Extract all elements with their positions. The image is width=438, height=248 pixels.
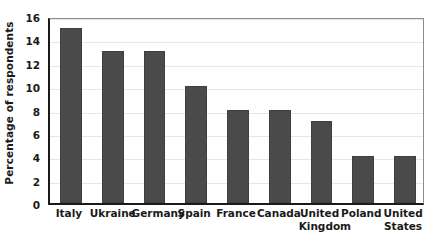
x-axis-tick-label: Spain bbox=[173, 207, 215, 220]
bar bbox=[185, 86, 207, 203]
bar-chart: Percentage of respondents 0246810121416 … bbox=[0, 0, 438, 248]
y-axis-tick-label: 14 bbox=[25, 35, 40, 47]
bar bbox=[227, 110, 249, 204]
y-axis-tick-label: 2 bbox=[33, 176, 40, 188]
bar bbox=[394, 156, 416, 203]
y-axis-tick-label: 10 bbox=[25, 82, 40, 94]
x-axis-tick-label: Ukraine bbox=[90, 207, 132, 220]
y-axis-tick-label: 16 bbox=[25, 12, 40, 24]
x-axis-tick-label: France bbox=[215, 207, 257, 220]
y-axis-tick-label: 0 bbox=[33, 199, 40, 211]
x-axis-tick-label: United States bbox=[382, 207, 424, 233]
bars-group bbox=[50, 19, 423, 203]
y-axis-tick-label: 8 bbox=[33, 106, 40, 118]
bar bbox=[60, 28, 82, 203]
y-axis-tick-label: 6 bbox=[33, 129, 40, 141]
x-axis-tick-label: United Kingdom bbox=[299, 207, 341, 233]
bar bbox=[269, 110, 291, 204]
y-axis-tick-labels: 0246810121416 bbox=[18, 18, 44, 205]
x-axis-tick-labels: ItalyUkraineGermanySpainFranceCanadaUnit… bbox=[48, 207, 424, 248]
y-axis-tick-label: 12 bbox=[25, 59, 40, 71]
y-axis-title-text: Percentage of respondents bbox=[3, 21, 15, 184]
y-axis-tick-label: 4 bbox=[33, 152, 40, 164]
y-axis-title: Percentage of respondents bbox=[0, 0, 18, 205]
x-axis-tick-label: Poland bbox=[340, 207, 382, 220]
plot-area bbox=[48, 18, 424, 205]
bar bbox=[352, 156, 374, 203]
bar bbox=[144, 51, 166, 203]
x-axis-tick-label: Germany bbox=[132, 207, 174, 220]
x-axis-tick-label: Canada bbox=[257, 207, 299, 220]
bar bbox=[102, 51, 124, 203]
x-axis-tick-label: Italy bbox=[48, 207, 90, 220]
bar bbox=[311, 121, 333, 203]
